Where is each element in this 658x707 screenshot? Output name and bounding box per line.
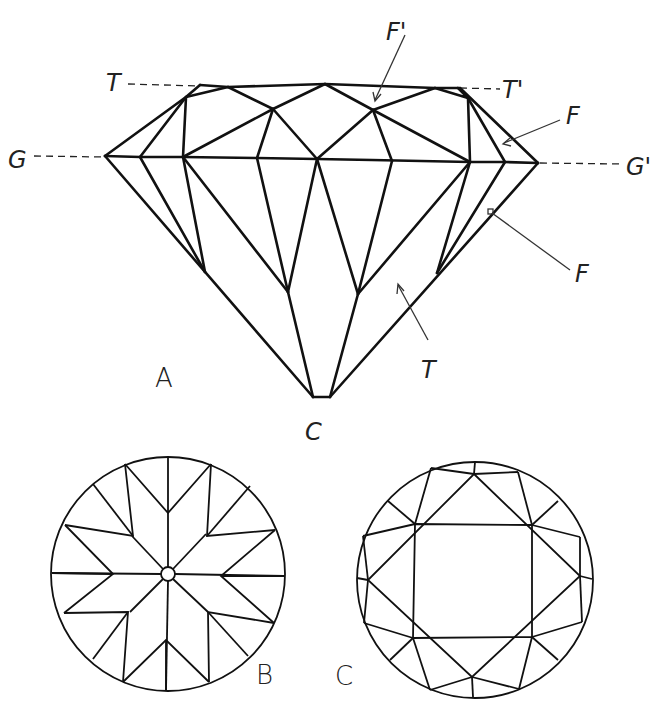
- label-table-right: T': [502, 76, 523, 104]
- panel-label-a: A: [155, 363, 173, 393]
- girdle-reference-line-right: [540, 163, 622, 164]
- table-reference-line-right: [460, 88, 500, 89]
- arrow-pavilion-facet: [492, 213, 570, 270]
- girdle-edge: [105, 156, 538, 163]
- label-girdle-left: G: [8, 146, 27, 174]
- panel-label-b: B: [256, 660, 273, 690]
- side-view: T T' G G' F' F F T A C: [8, 18, 651, 446]
- label-culet: C: [305, 418, 322, 446]
- outline-circle-c: [357, 462, 593, 698]
- culet-circle: [161, 567, 175, 581]
- pavilion-facets: [105, 156, 538, 397]
- label-crown-top-facet: F': [386, 18, 406, 46]
- crown-facets: [105, 84, 538, 163]
- diamond-diagram: T T' G G' F' F F T A C: [0, 0, 658, 707]
- table-reference-line-left: [128, 84, 200, 86]
- arrow-crown-side-facet: [504, 120, 560, 143]
- girdle-reference-line-left: [34, 156, 104, 157]
- table-square-2: [368, 474, 580, 677]
- panel-label-c: C: [335, 661, 353, 691]
- crown-view-c: C: [335, 462, 593, 698]
- label-girdle-right: G': [626, 153, 651, 181]
- label-pavilion-facet: F: [575, 260, 590, 288]
- label-pavilion-main: T: [421, 356, 438, 384]
- pavilion-view-b: B: [51, 457, 285, 691]
- label-crown-side-facet: F: [566, 102, 581, 130]
- table-square-1: [413, 524, 532, 638]
- label-table-left: T: [106, 69, 123, 97]
- pointer-arrows: [373, 35, 570, 340]
